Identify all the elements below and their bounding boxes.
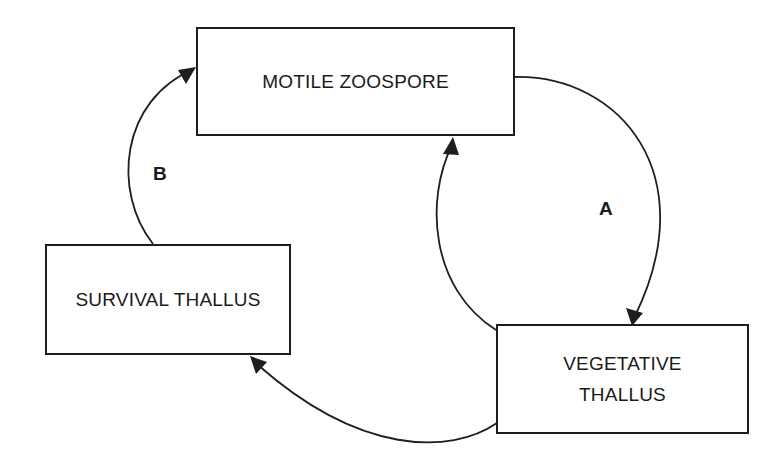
arrow-b-survival-to-zoospore xyxy=(128,69,194,244)
arrow-a-zoospore-to-vegetative xyxy=(515,77,660,318)
arrow-vegetative-to-zoospore xyxy=(437,145,496,330)
node-survival-thallus: SURVIVAL THALLUS xyxy=(45,244,291,355)
edge-label-b: B xyxy=(153,163,167,185)
arrowhead-return-icon xyxy=(443,137,459,155)
node-survival-thallus-label: SURVIVAL THALLUS xyxy=(75,284,260,315)
node-vegetative-thallus-line1: VEGETATIVE xyxy=(563,348,682,379)
node-vegetative-thallus: VEGETATIVE THALLUS xyxy=(496,324,749,434)
edge-label-a: A xyxy=(599,198,613,220)
arrow-vegetative-to-survival xyxy=(258,365,497,442)
node-motile-zoospore: MOTILE ZOOSPORE xyxy=(196,27,515,136)
node-vegetative-thallus-line2: THALLUS xyxy=(563,379,682,410)
node-motile-zoospore-label: MOTILE ZOOSPORE xyxy=(262,66,449,97)
